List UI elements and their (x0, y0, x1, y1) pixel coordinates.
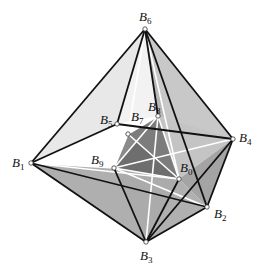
label-b2: B2 (214, 207, 226, 223)
polyhedron-diagram (0, 0, 264, 267)
label-b5: B5 (100, 113, 112, 129)
label-b6: B6 (139, 10, 151, 26)
label-b4: B4 (239, 131, 251, 147)
label-b7: B7 (131, 110, 143, 126)
label-b8: B8 (148, 100, 160, 116)
label-b9: B9 (91, 153, 103, 169)
label-b0: B0 (180, 161, 192, 177)
label-b1: B1 (12, 156, 24, 172)
label-b3: B3 (140, 249, 152, 265)
